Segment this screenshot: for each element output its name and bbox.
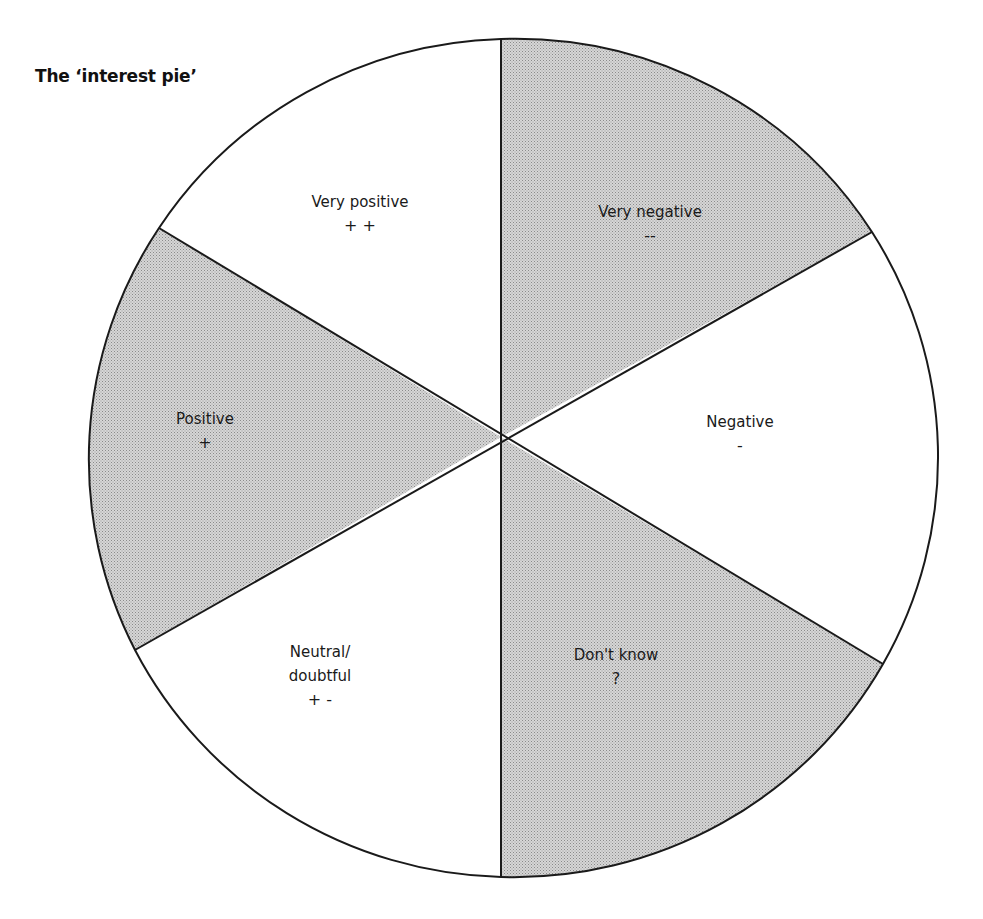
segment-label: doubtful	[289, 664, 352, 688]
segment-label: Negative	[706, 413, 773, 431]
label-negative: Negative -	[706, 410, 773, 458]
segment-label: Positive	[176, 410, 234, 428]
interest-pie	[0, 0, 983, 919]
segment-label: Don't know	[574, 646, 659, 664]
segment-label: Neutral/	[289, 640, 352, 664]
segment-label: Very positive	[312, 193, 409, 211]
segment-positive	[89, 228, 501, 650]
segment-symbol: +	[176, 431, 234, 455]
segment-symbol: + +	[312, 214, 409, 238]
label-very-positive: Very positive + +	[312, 190, 409, 238]
segment-label: Very negative	[598, 203, 702, 221]
segment-symbol: ?	[574, 667, 659, 691]
segment-symbol: + -	[289, 688, 352, 712]
label-dont-know: Don't know ?	[574, 643, 659, 691]
segment-symbol: --	[598, 224, 702, 248]
segment-symbol: -	[706, 434, 773, 458]
segment-dont-know	[501, 437, 883, 877]
label-very-negative: Very negative --	[598, 200, 702, 248]
label-positive: Positive +	[176, 407, 234, 455]
label-neutral-doubtful: Neutral/ doubtful + -	[289, 640, 352, 712]
